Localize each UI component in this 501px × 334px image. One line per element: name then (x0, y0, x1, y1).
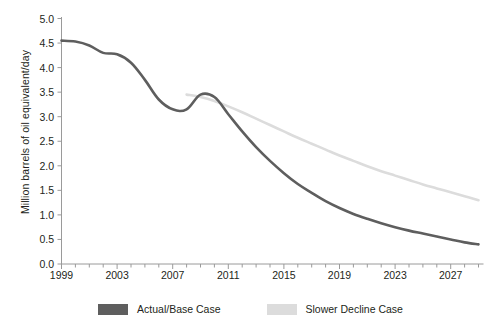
x-tick-label: 2003 (97, 269, 137, 281)
chart-legend: Actual/Base CaseSlower Decline Case (0, 303, 501, 315)
x-tick-label: 2015 (264, 269, 304, 281)
y-tick-label: 5.0 (28, 14, 54, 24)
legend-swatch (267, 304, 297, 315)
y-tick-label: 0.0 (28, 259, 54, 269)
y-tick-label: 0.5 (28, 234, 54, 244)
y-tick-label: 3.5 (28, 87, 54, 97)
legend-label: Actual/Base Case (137, 303, 220, 315)
series-line-actual-base-case (62, 41, 479, 245)
chart-container: Million barrels of oil equivalent/day 0.… (0, 0, 501, 334)
legend-label: Slower Decline Case (306, 303, 403, 315)
x-tick-label: 2027 (431, 269, 471, 281)
plot-area (0, 0, 501, 334)
legend-swatch (98, 304, 128, 315)
y-tick-label: 3.0 (28, 112, 54, 122)
y-tick-label: 1.5 (28, 185, 54, 195)
y-tick-label: 2.5 (28, 136, 54, 146)
y-tick-label: 4.0 (28, 63, 54, 73)
x-tick-label: 2011 (208, 269, 248, 281)
x-tick-label: 1999 (42, 269, 82, 281)
x-tick-label: 2007 (153, 269, 193, 281)
legend-item[interactable]: Actual/Base Case (98, 303, 220, 315)
series-group (62, 41, 479, 245)
x-tick-label: 2019 (320, 269, 360, 281)
y-axis-tick-labels: 0.00.51.01.52.02.53.03.54.04.55.0 (24, 0, 54, 334)
x-tick-label: 2023 (375, 269, 415, 281)
y-tick-label: 2.0 (28, 161, 54, 171)
y-tick-label: 4.5 (28, 38, 54, 48)
series-line-slower-decline-case (187, 95, 479, 201)
y-tick-label: 1.0 (28, 210, 54, 220)
legend-item[interactable]: Slower Decline Case (267, 303, 403, 315)
